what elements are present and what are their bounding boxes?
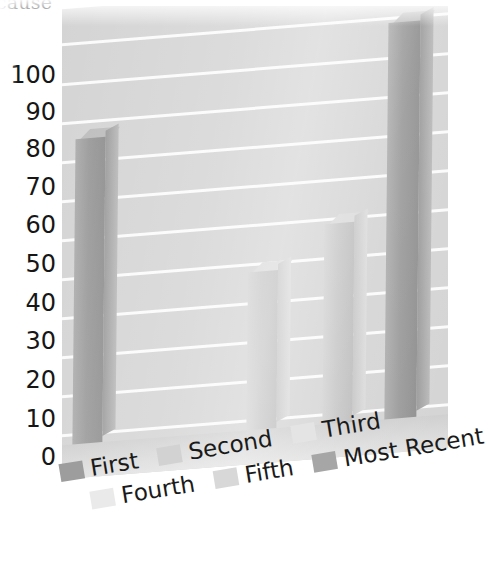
y-tick-label: 100 bbox=[10, 63, 56, 87]
legend-swatch-icon bbox=[213, 467, 240, 489]
legend-swatch-icon bbox=[290, 422, 317, 444]
y-tick-label: 40 bbox=[25, 291, 56, 315]
bar-front-face bbox=[72, 137, 105, 445]
y-tick-label: 20 bbox=[25, 368, 56, 392]
legend-swatch-icon bbox=[157, 444, 184, 466]
y-tick-label: 80 bbox=[25, 137, 56, 161]
legend-label: Fifth bbox=[243, 454, 296, 488]
legend-label: First bbox=[88, 447, 140, 481]
bar-group bbox=[62, 6, 448, 10]
bar-first[interactable] bbox=[72, 137, 105, 445]
y-tick-label: 30 bbox=[25, 329, 56, 353]
legend-swatch-icon bbox=[312, 451, 339, 473]
bar-front-face bbox=[384, 20, 420, 419]
y-tick-label: 70 bbox=[25, 175, 56, 199]
bar-most-recent[interactable] bbox=[384, 20, 420, 419]
legend-label: Third bbox=[320, 407, 382, 442]
y-tick-label: 10 bbox=[25, 407, 56, 431]
legend-item[interactable]: Fifth bbox=[212, 454, 295, 493]
y-tick-label: 50 bbox=[25, 252, 56, 276]
y-tick-label: 60 bbox=[25, 213, 56, 237]
gridlines bbox=[62, 6, 448, 10]
legend-label: Fourth bbox=[119, 471, 196, 509]
legend-swatch-icon bbox=[89, 488, 116, 510]
y-tick-label: 90 bbox=[25, 100, 56, 124]
legend-swatch-icon bbox=[58, 460, 85, 482]
